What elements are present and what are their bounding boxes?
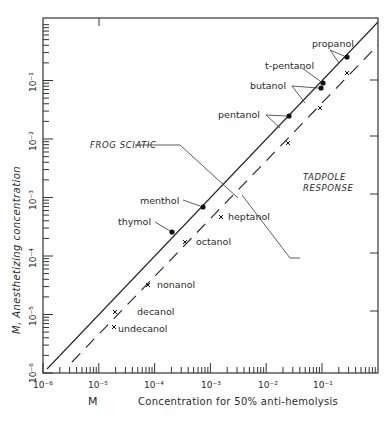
point-propanol-tadpole bbox=[345, 71, 349, 75]
x-tick-1e-3: 10⁻³ bbox=[201, 380, 221, 390]
label-octanol: octanol bbox=[196, 236, 231, 247]
log-log-chart: propanol t-pentanol butanol pentanol men… bbox=[0, 0, 392, 425]
point-heptanol-tadpole bbox=[219, 215, 223, 219]
y-tick-1e-6: 10⁻⁶ bbox=[28, 363, 38, 383]
label-butanol: butanol bbox=[250, 80, 286, 91]
label-thymol: thymol bbox=[118, 216, 151, 227]
label-response: RESPONSE bbox=[303, 183, 353, 193]
label-frog-sciatic: FROG SCIATIC bbox=[90, 140, 157, 150]
point-octanol-tadpole bbox=[183, 240, 187, 244]
y-axis-ticks bbox=[43, 25, 53, 373]
point-undecanol-tadpole bbox=[112, 325, 116, 329]
leader-lines bbox=[135, 50, 344, 258]
frog-sciatic-line bbox=[47, 22, 378, 369]
point-pentanol-tadpole bbox=[286, 141, 290, 145]
point-decanol-tadpole bbox=[113, 310, 117, 314]
y-tick-1e-1: 10⁻¹ bbox=[28, 72, 38, 92]
point-butanol-frog bbox=[318, 85, 323, 90]
label-pentanol: pentanol bbox=[218, 109, 260, 120]
y-axis-title: M, Anesthetizing concentration bbox=[11, 166, 22, 334]
point-tpentanol-frog bbox=[320, 80, 325, 85]
point-menthol-frog bbox=[200, 204, 205, 209]
point-pentanol-frog bbox=[286, 113, 291, 118]
label-propanol: propanol bbox=[312, 38, 354, 49]
label-undecanol: undecanol bbox=[118, 323, 167, 334]
point-propanol-frog bbox=[344, 54, 349, 59]
x-tick-labels: 10⁻⁶ 10⁻⁵ 10⁻⁴ 10⁻³ 10⁻² 10⁻¹ bbox=[33, 380, 333, 390]
label-decanol: decanol bbox=[137, 306, 174, 317]
x-tick-1e-2: 10⁻² bbox=[258, 380, 278, 390]
tadpole-response-line bbox=[72, 45, 378, 362]
frame-major-ticks bbox=[99, 18, 378, 311]
y-tick-1e-3: 10⁻³ bbox=[28, 190, 38, 210]
x-axis-title: Concentration for 50% anti-hemolysis bbox=[138, 396, 338, 407]
x-tick-1e-4: 10⁻⁴ bbox=[144, 380, 164, 390]
label-tadpole: TADPOLE bbox=[303, 172, 346, 182]
label-menthol: menthol bbox=[140, 195, 179, 206]
label-tpentanol: t-pentanol bbox=[265, 60, 314, 71]
x-tick-1e-5: 10⁻⁵ bbox=[88, 380, 108, 390]
x-axis-ticks bbox=[43, 363, 375, 373]
point-thymol-frog bbox=[169, 229, 174, 234]
label-nonanol: nonanol bbox=[157, 279, 195, 290]
x-tick-1e-1: 10⁻¹ bbox=[313, 380, 333, 390]
y-tick-1e-4: 10⁻⁴ bbox=[28, 248, 38, 268]
y-tick-1e-5: 10⁻⁵ bbox=[28, 306, 38, 326]
x-axis-unit: M bbox=[88, 395, 98, 408]
label-heptanol: heptanol bbox=[228, 211, 270, 222]
y-tick-labels: 10⁻⁶ 10⁻⁵ 10⁻⁴ 10⁻³ 10⁻² 10⁻¹ bbox=[28, 72, 38, 383]
y-tick-1e-2: 10⁻² bbox=[28, 131, 38, 151]
point-butanol-tadpole bbox=[318, 106, 322, 110]
